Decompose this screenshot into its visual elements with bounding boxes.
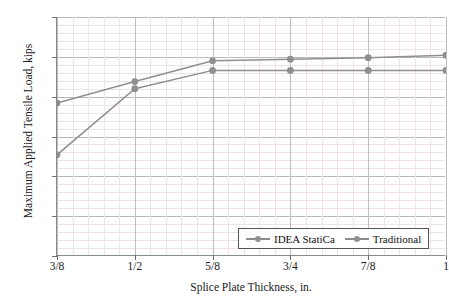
x-axis-tick-label: 1/2 [127,260,142,272]
data-point [131,78,138,85]
x-axis-tick-label: 5/8 [205,260,220,272]
y-axis-tick-mark [52,216,57,217]
data-point [443,52,446,59]
data-point [209,57,216,64]
x-axis-tick-label: 7/8 [361,260,376,272]
legend-marker-icon [246,234,270,244]
y-axis-tick-mark [52,97,57,98]
y-axis-tick-mark [52,137,57,138]
data-point [287,56,294,63]
data-point [443,67,446,74]
series-svg [57,17,446,256]
legend-label: Traditional [373,233,422,245]
y-axis-tick-mark [52,176,57,177]
chart-legend: IDEA StatiCa Traditional [238,228,429,249]
legend-item-idea-statica[interactable]: IDEA StatiCa [246,233,335,245]
y-axis-title: Maximum Applied Tensile Load, kips [22,11,34,251]
gridline-major-vertical [446,17,447,255]
x-axis-tick-label: 3/8 [50,260,65,272]
y-axis-tick-mark [52,17,57,18]
x-axis-title: Splice Plate Thickness, in. [56,281,446,293]
x-axis-tick-label: 3/4 [283,260,298,272]
data-point [57,100,60,107]
x-axis-tick-label: 1 [443,260,449,272]
data-point [209,67,216,74]
plot-area: 0501001502002503003/81/25/83/47/81 [56,17,445,256]
series-line-1 [57,70,446,154]
legend-marker-icon [345,234,369,244]
data-point [131,85,138,92]
series-line-2 [57,55,446,103]
y-axis-tick-mark [52,57,57,58]
series-layer [57,17,445,255]
data-point [365,54,372,61]
legend-item-traditional[interactable]: Traditional [345,233,422,245]
data-point [287,67,294,74]
data-point [365,67,372,74]
legend-label: IDEA StatiCa [274,233,335,245]
